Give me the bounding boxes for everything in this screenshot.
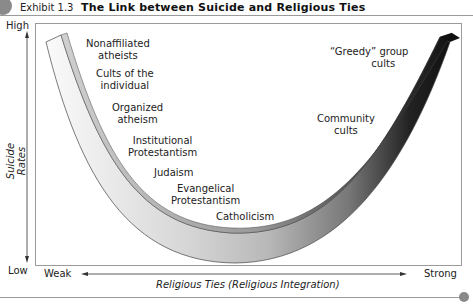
footer-dot-icon — [459, 292, 469, 302]
label-line: Institutional — [128, 135, 197, 147]
label-line: Community — [317, 113, 375, 125]
label-line: Evangelical — [171, 183, 240, 195]
label-cults-of-individual: Cults of the individual — [96, 68, 154, 92]
label-greedy-group-cults: “Greedy” group cults — [330, 46, 408, 70]
x-axis-title: Religious Ties (Religious Integration) — [156, 279, 340, 290]
label-line: atheists — [86, 50, 150, 62]
label-evangelical-protestantism: Evangelical Protestantism — [171, 183, 240, 207]
label-line: cults — [330, 58, 408, 70]
y-axis-title: Suicide Rates — [5, 131, 27, 191]
label-line: Nonaffiliated — [86, 38, 150, 50]
y-axis-low-label: Low — [8, 265, 28, 276]
label-line: Organized — [112, 102, 163, 114]
x-axis-strong-label: Strong — [424, 268, 457, 279]
label-organized-atheism: Organized atheism — [112, 102, 163, 126]
label-community-cults: Community cults — [317, 113, 375, 137]
label-institutional-protestantism: Institutional Protestantism — [128, 135, 197, 159]
label-line: Protestantism — [128, 147, 197, 159]
label-judaism: Judaism — [154, 167, 194, 179]
label-line: Protestantism — [171, 195, 240, 207]
label-line: cults — [317, 125, 375, 137]
label-line: Catholicism — [216, 211, 274, 223]
footer-divider — [0, 297, 462, 298]
label-line: atheism — [112, 114, 163, 126]
label-line: Cults of the — [96, 68, 154, 80]
y-axis-high-label: High — [6, 20, 29, 31]
label-nonaffiliated-atheists: Nonaffiliated atheists — [86, 38, 150, 62]
x-axis-weak-label: Weak — [44, 268, 71, 279]
label-line: “Greedy” group — [330, 46, 408, 58]
label-line: individual — [96, 80, 154, 92]
label-line: Judaism — [154, 167, 194, 179]
label-catholicism: Catholicism — [216, 211, 274, 223]
